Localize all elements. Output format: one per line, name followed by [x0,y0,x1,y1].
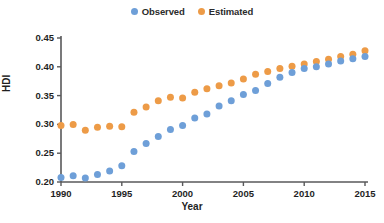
data-point [58,174,65,181]
data-point [106,123,113,130]
data-point [155,97,162,104]
data-point [216,82,223,89]
x-tick-label: 1990 [50,189,71,199]
data-point [240,91,247,98]
data-point [130,109,137,116]
data-point [191,115,198,122]
data-point [362,53,369,60]
data-point [264,68,271,75]
data-point [203,111,210,118]
x-tick-label: 2005 [233,189,254,199]
data-point [94,171,101,178]
x-tick-label: 2010 [294,189,315,199]
y-tick-label: 0.20 [20,177,54,187]
data-point [82,127,89,134]
data-point [179,94,186,101]
y-axis-title: HDI [2,75,12,92]
data-point [203,85,210,92]
data-point [82,174,89,181]
y-tick-label: 0.40 [20,62,54,72]
data-point [252,71,259,78]
data-point [167,94,174,101]
x-tick-label: 2000 [172,189,193,199]
x-axis-title: Year [0,202,384,212]
series-observed-points [58,53,369,182]
data-point [106,168,113,175]
data-point [276,74,283,81]
data-point [289,69,296,76]
data-point [301,65,308,72]
x-tick-label: 2015 [354,189,375,199]
data-point [179,122,186,129]
data-point [240,75,247,82]
y-tick-label: 0.35 [20,91,54,101]
data-point [143,140,150,147]
data-point [130,148,137,155]
y-tick-label: 0.30 [20,120,54,130]
x-tick-label: 1995 [111,189,132,199]
series-estimated-points [58,47,369,133]
data-point [58,122,65,129]
data-point [143,104,150,111]
data-point [155,133,162,140]
y-tick-label: 0.25 [20,148,54,158]
data-point [252,87,259,94]
data-point [337,58,344,65]
data-point [70,172,77,179]
hdi-scatter-chart: Observed Estimated 0.200.250.300.350.400… [0,0,384,223]
data-point [313,63,320,70]
data-point [118,123,125,130]
data-point [228,97,235,104]
data-point [216,102,223,109]
y-tick-label: 0.45 [20,33,54,43]
data-point [118,162,125,169]
data-point [276,65,283,72]
data-point [228,79,235,86]
data-point [191,89,198,96]
axis-lines [61,36,368,182]
data-point [264,80,271,87]
data-point [94,124,101,131]
data-point [349,55,356,62]
data-point [325,60,332,67]
data-point [70,121,77,128]
data-point [289,63,296,70]
data-point [167,126,174,133]
